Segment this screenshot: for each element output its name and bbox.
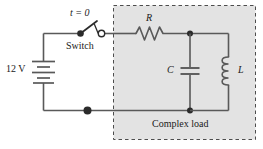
- switch-time-label: t = 0: [70, 8, 90, 18]
- circuit-diagram: 12 V t = 0 Switch R C L Complex load: [0, 0, 263, 149]
- switch-name-label: Switch: [66, 41, 94, 51]
- switch-contact-stub: [95, 25, 99, 34]
- switch-right-terminal-circle: [98, 30, 104, 36]
- circuit-schematic-svg: [0, 0, 263, 149]
- source-bottom-terminal-dot: [84, 107, 92, 115]
- complex-load-label: Complex load: [152, 119, 208, 129]
- inductor-label: L: [238, 65, 244, 75]
- switch-blade: [81, 21, 98, 34]
- resistor-label: R: [146, 13, 152, 23]
- capacitor-label: C: [167, 65, 174, 75]
- source-voltage-label: 12 V: [6, 64, 26, 74]
